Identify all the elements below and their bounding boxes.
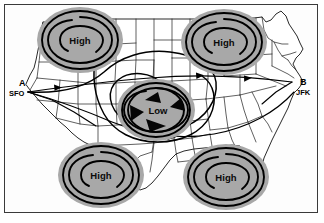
waypoint-destination-letter: B <box>300 77 307 87</box>
high-northwest-label: High <box>69 35 91 46</box>
pressure-system-low-center: Low <box>117 79 195 141</box>
low-center-label: Low <box>149 105 169 116</box>
waypoint-origin-letter: A <box>19 78 26 88</box>
waypoint-destination-code: JFK <box>296 88 311 97</box>
pressure-system-high-southeast: High <box>183 144 269 210</box>
pressure-system-high-northwest: High <box>37 7 123 73</box>
waypoint-origin-code: SFO <box>9 89 25 98</box>
weather-map-figure: High High High <box>0 0 324 223</box>
waypoint-origin: A SFO <box>9 78 26 98</box>
high-southwest-label: High <box>90 170 112 181</box>
map-canvas: High High High <box>0 0 324 223</box>
pressure-system-high-northeast: High <box>181 9 267 75</box>
pressure-system-high-southwest: High <box>58 142 144 208</box>
high-northeast-label: High <box>213 37 235 48</box>
high-southeast-label: High <box>215 172 237 183</box>
